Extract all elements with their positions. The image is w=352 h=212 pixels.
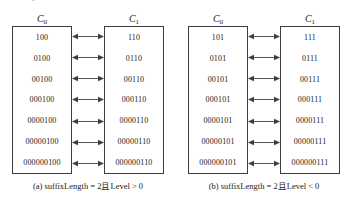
column-header-c0-subscript: 0 [220,18,224,26]
code-entry: 0000111 [281,116,339,125]
code-entry: 0101 [189,54,247,63]
code-box-c0: 101 0101 00101 000101 0000101 00000101 0… [188,26,248,174]
figure-container: C0 C1 100 0100 00100 000100 0000100 0000… [0,12,352,212]
panel-a: C0 C1 100 0100 00100 000100 0000100 0000… [0,12,176,212]
double-arrow-icon [72,74,104,83]
double-arrow-icon [248,159,280,168]
code-entry: 000110 [105,95,163,104]
code-entry: 000000100 [13,158,71,167]
code-box-c1: 111 0111 00111 000111 0000111 00000111 0… [280,26,340,174]
double-arrow-icon [72,95,104,104]
column-header-c1-base: C [305,13,312,24]
double-arrow-icon [248,117,280,126]
double-arrow-icon [72,138,104,147]
panel-b: C0 C1 101 0101 00101 000101 0000101 0000… [176,12,352,212]
code-box-c1: 110 0110 00110 000110 0000110 00000110 0… [104,26,164,174]
code-entry: 0100 [13,54,71,63]
column-header-c0: C0 [12,12,72,26]
code-entry: 0000110 [105,116,163,125]
code-entry: 000000110 [105,158,163,167]
column-header-c1-base: C [129,13,136,24]
arrow-band [248,26,280,174]
code-entry: 0000100 [13,116,71,125]
code-entry: 0111 [281,54,339,63]
double-arrow-icon [248,53,280,62]
column-header-c1-subscript: 1 [136,18,140,26]
arrow-band [72,26,104,174]
column-header-c1: C1 [104,12,164,26]
column-header-c0-subscript: 0 [44,18,48,26]
double-arrow-icon [72,53,104,62]
panel-caption: (a) suffixLength = 2且Level > 0 [0,180,176,192]
double-arrow-icon [72,32,104,41]
column-header-c0-base: C [213,13,220,24]
code-entry: 00000100 [13,137,71,146]
code-entry: 00101 [189,75,247,84]
column-header-c0-base: C [37,13,44,24]
double-arrow-icon [72,117,104,126]
code-box-c0: 100 0100 00100 000100 0000100 00000100 0… [12,26,72,174]
double-arrow-icon [248,74,280,83]
double-arrow-icon [248,95,280,104]
code-entry: 00000111 [281,137,339,146]
column-header-c0: C0 [188,12,248,26]
code-entry: 100 [13,33,71,42]
code-entry: 000100 [13,95,71,104]
code-entry: 00110 [105,75,163,84]
code-entry: 00111 [281,75,339,84]
double-arrow-icon [72,159,104,168]
code-entry: 101 [189,33,247,42]
panel-caption: (b) suffixLength = 2且Level < 0 [176,180,352,192]
code-entry: 000000111 [281,158,339,167]
code-entry: 000101 [189,95,247,104]
double-arrow-icon [248,32,280,41]
double-arrow-icon [248,138,280,147]
cropped-text-sliver: ··· ·· —₀· ·· — · ··· · · · ········ · ·… [0,0,352,3]
code-entry: 110 [105,33,163,42]
code-entry: 0110 [105,54,163,63]
code-entry: 00100 [13,75,71,84]
code-entry: 0000101 [189,116,247,125]
code-entry: 000000101 [189,158,247,167]
column-header-c1: C1 [280,12,340,26]
code-entry: 000111 [281,95,339,104]
column-header-c1-subscript: 1 [312,18,316,26]
code-entry: 00000110 [105,137,163,146]
code-entry: 00000101 [189,137,247,146]
code-entry: 111 [281,33,339,42]
